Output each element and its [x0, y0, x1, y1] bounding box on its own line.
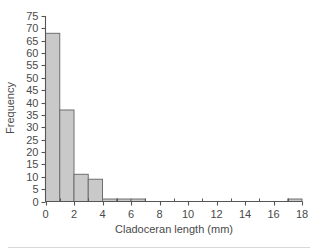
y-axis-tick-label: 65: [26, 35, 38, 47]
x-axis-tick-label: 18: [296, 208, 308, 220]
histogram-bar: [46, 33, 60, 201]
histogram-bar: [74, 174, 88, 201]
histogram-figure: 024681012141618 051015202530354045505560…: [0, 0, 318, 249]
y-axis-tick-label: 5: [32, 183, 38, 195]
histogram-bar: [88, 179, 102, 201]
y-axis-tick-label: 35: [26, 109, 38, 121]
x-axis-title: Cladoceran length (mm): [115, 223, 233, 235]
y-axis-tick-label: 50: [26, 72, 38, 84]
x-axis-tick-label: 2: [71, 208, 77, 220]
y-axis-tick-label: 15: [26, 158, 38, 170]
y-axis-tick-label: 40: [26, 97, 38, 109]
y-axis-title: Frequency: [4, 82, 16, 134]
y-axis-tick-labels: 051015202530354045505560657075: [26, 10, 38, 208]
x-axis-tick-label: 8: [156, 208, 162, 220]
y-axis-tick-label: 45: [26, 84, 38, 96]
y-axis-tick-label: 0: [32, 196, 38, 208]
y-axis-tick-label: 55: [26, 59, 38, 71]
y-axis-tick-label: 75: [26, 10, 38, 22]
y-axis-tick-label: 70: [26, 22, 38, 34]
x-axis-tick-label: 10: [182, 208, 194, 220]
cladoceran-length-histogram: 024681012141618 051015202530354045505560…: [0, 0, 318, 249]
y-axis-tick-label: 60: [26, 47, 38, 59]
y-axis-tick-label: 10: [26, 171, 38, 183]
x-axis-tick-label: 16: [267, 208, 279, 220]
y-axis-tick-label: 25: [26, 134, 38, 146]
x-axis-tick-label: 14: [239, 208, 251, 220]
y-axis-tick-label: 30: [26, 121, 38, 133]
histogram-bar: [60, 110, 74, 202]
x-axis-tick-label: 12: [210, 208, 222, 220]
x-axis-tick-label: 4: [99, 208, 105, 220]
x-axis-tick-label: 0: [42, 208, 48, 220]
y-axis-tick-label: 20: [26, 146, 38, 158]
x-axis-tick-label: 6: [128, 208, 134, 220]
